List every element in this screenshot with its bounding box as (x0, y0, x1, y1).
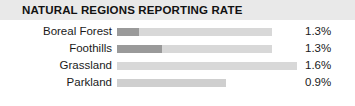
bar-segment-light (117, 62, 297, 70)
bar-value-label: 0.9% (305, 75, 351, 90)
bar-track (117, 28, 272, 36)
chart-row: Boreal Forest 1.3% (0, 24, 355, 41)
chart-row: Foothills 1.3% (0, 41, 355, 58)
bar-track (117, 79, 226, 87)
chart-row: Grassland 1.6% (0, 58, 355, 75)
natural-regions-reporting-rate-chart: NATURAL REGIONS REPORTING RATE Boreal Fo… (0, 0, 355, 106)
bar-segment-light (117, 79, 226, 87)
bar-segment-dark (117, 28, 139, 36)
chart-title: NATURAL REGIONS REPORTING RATE (22, 3, 242, 17)
bar-value-label: 1.3% (305, 41, 351, 56)
bar-track (117, 62, 297, 70)
bar-segment-light (117, 28, 272, 36)
bar-value-label: 1.6% (305, 58, 351, 73)
chart-row: Parkland 0.9% (0, 75, 355, 92)
bar-segment-dark (117, 45, 162, 53)
bar-track (117, 45, 272, 53)
bar-category-label: Grassland (0, 58, 112, 73)
chart-rows: Boreal Forest 1.3% Foothills 1.3% Grassl… (0, 24, 355, 92)
bar-category-label: Foothills (0, 41, 112, 56)
bar-category-label: Parkland (0, 75, 112, 90)
bar-category-label: Boreal Forest (0, 24, 112, 39)
bar-value-label: 1.3% (305, 24, 351, 39)
